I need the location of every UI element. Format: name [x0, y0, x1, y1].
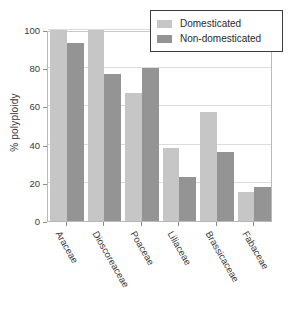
bar	[104, 74, 121, 221]
bar	[200, 112, 217, 221]
y-axis-tick-label: 40	[0, 140, 40, 151]
bar	[254, 187, 271, 221]
legend-swatch	[157, 35, 172, 43]
x-axis-tick-label: Fabaceae	[241, 229, 272, 271]
bar	[179, 177, 196, 221]
y-axis-tick-label: 0	[0, 216, 40, 227]
x-axis-tick-label: Brassicaceae	[203, 229, 241, 284]
bar	[125, 93, 142, 221]
bar	[217, 152, 234, 221]
plot-area	[47, 31, 272, 222]
y-axis-tick-label: 20	[0, 178, 40, 189]
x-axis-tick-mark	[141, 222, 142, 226]
legend-label: Non-domesticated	[180, 33, 261, 44]
x-axis-tick-label: Poaceae	[128, 229, 156, 267]
legend-item: Domesticated	[157, 16, 276, 31]
x-axis-tick-mark	[103, 222, 104, 226]
bar-group	[238, 32, 272, 221]
x-axis-tick-label: Dioscoreaceae	[91, 229, 132, 289]
bar	[50, 30, 67, 221]
chart-figure: % polyploidy 020406080100 AraceaeDioscor…	[0, 0, 290, 316]
bar	[238, 192, 255, 221]
y-axis-tick-label: 100	[0, 25, 40, 36]
bar	[67, 43, 84, 221]
bar-group	[200, 32, 234, 221]
bar	[163, 148, 180, 221]
y-axis-tick-label: 60	[0, 101, 40, 112]
bar-group	[125, 32, 159, 221]
bar	[142, 68, 159, 221]
y-axis-title: % polyploidy	[9, 78, 20, 168]
x-axis-tick-mark	[216, 222, 217, 226]
bar-group	[88, 32, 122, 221]
x-axis-tick-label: Araceae	[53, 229, 80, 265]
x-axis-tick-label: Liliaceae	[166, 229, 194, 267]
y-axis-tick-mark	[43, 222, 47, 223]
y-axis-tick-label: 80	[0, 63, 40, 74]
x-axis-tick-mark	[253, 222, 254, 226]
x-axis-tick-mark	[66, 222, 67, 226]
legend-swatch	[157, 20, 172, 28]
bar-group	[163, 32, 197, 221]
bar	[88, 30, 105, 221]
legend-label: Domesticated	[180, 18, 241, 29]
chart-legend: DomesticatedNon-domesticated	[150, 10, 283, 52]
x-axis-tick-mark	[178, 222, 179, 226]
legend-item: Non-domesticated	[157, 31, 276, 46]
bar-group	[50, 32, 84, 221]
